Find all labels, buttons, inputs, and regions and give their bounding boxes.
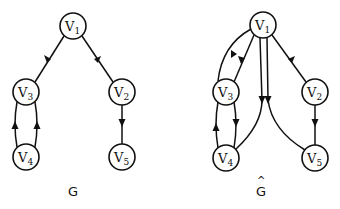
arrowhead-icon xyxy=(312,119,319,127)
node-v1: V1 xyxy=(60,13,86,39)
arrowhead-icon xyxy=(288,56,295,63)
graph-diagram: V1 V2 V3 V4 V5 G xyxy=(0,0,340,209)
node-v1: V1 xyxy=(250,12,276,38)
node-v4: V4 xyxy=(213,145,239,171)
node-v2: V2 xyxy=(302,79,328,105)
node-v5: V5 xyxy=(302,145,328,171)
arrowhead-icon xyxy=(259,96,266,104)
arrowhead-icon xyxy=(231,50,237,58)
graph-label-g: G xyxy=(68,184,78,199)
node-v4: V4 xyxy=(13,144,39,170)
node-v3: V3 xyxy=(213,79,239,105)
graph-g-hat: V1 V2 V3 V4 V5 ^ G xyxy=(213,12,329,199)
arrowhead-icon xyxy=(233,119,240,127)
arrowhead-icon xyxy=(44,55,51,63)
graph-label-g-hat: G xyxy=(256,184,266,199)
arrowhead-icon xyxy=(34,121,41,129)
edge-v1-v2 xyxy=(272,35,306,82)
arrowhead-icon xyxy=(12,121,19,129)
arrowhead-icon xyxy=(213,123,220,131)
graph-g: V1 V2 V3 V4 V5 G xyxy=(12,13,136,199)
arrowhead-icon xyxy=(119,119,126,127)
node-v2: V2 xyxy=(109,79,135,105)
arrowhead-icon xyxy=(265,96,272,104)
node-v5: V5 xyxy=(109,144,135,170)
edge-v4-v1-curved xyxy=(236,38,262,149)
node-v3: V3 xyxy=(13,79,39,105)
